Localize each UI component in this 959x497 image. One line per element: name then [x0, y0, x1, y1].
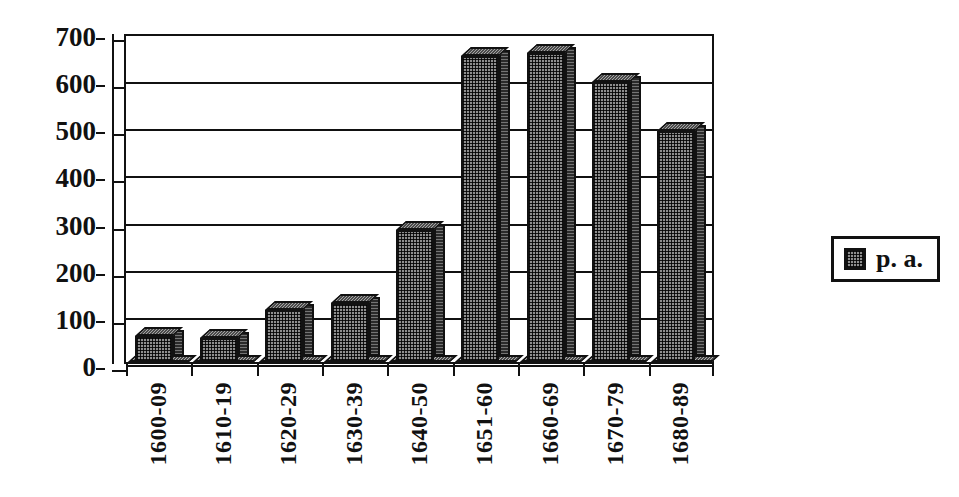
- plot-area: [112, 34, 714, 364]
- y-axis-tick-marker: [96, 227, 105, 229]
- bar[interactable]: [200, 329, 238, 362]
- bar-side-face: [565, 47, 576, 356]
- bar[interactable]: [331, 294, 369, 362]
- x-axis-label: 1670-79: [602, 382, 629, 466]
- bar-side-face: [499, 50, 510, 356]
- y-axis-tick-marker: [96, 38, 105, 40]
- y-axis-tick: [112, 87, 126, 89]
- y-axis-tick: [112, 181, 126, 183]
- x-axis-label: 1680-89: [667, 382, 694, 466]
- legend-swatch-icon: [844, 248, 866, 270]
- bar[interactable]: [527, 44, 565, 362]
- y-axis-tick: [112, 229, 126, 231]
- bar-front-face: [396, 230, 434, 362]
- bar-front-face: [527, 53, 565, 362]
- x-axis-tick: [518, 364, 520, 376]
- y-axis-tick: [112, 40, 126, 42]
- y-axis-tick-label: 100: [10, 307, 96, 334]
- plot-inner: [126, 34, 714, 364]
- y-axis-tick: [112, 134, 126, 136]
- bar[interactable]: [265, 301, 303, 362]
- bar[interactable]: [592, 73, 630, 363]
- x-axis-tick: [257, 364, 259, 376]
- x-axis-label: 1660-69: [537, 382, 564, 466]
- x-axis: 1600-091610-191620-291630-391640-501651-…: [112, 364, 714, 497]
- y-axis-tick-label: 600: [10, 71, 96, 98]
- y-axis-tick-marker: [96, 274, 105, 276]
- bar[interactable]: [135, 327, 173, 362]
- x-axis-tick: [649, 364, 651, 376]
- x-axis-label: 1610-19: [210, 382, 237, 466]
- x-axis-label: 1630-39: [341, 382, 368, 466]
- y-axis-labels: 0100200300400500600700: [10, 0, 96, 497]
- y-axis-tick-marker: [96, 132, 105, 134]
- y-axis-tick: [112, 323, 126, 325]
- y-axis-tick-label: 0: [10, 354, 96, 381]
- legend-label: p. a.: [876, 246, 923, 272]
- y-axis-tick-label: 400: [10, 165, 96, 192]
- x-axis-tick: [322, 364, 324, 376]
- x-axis-tick: [191, 364, 193, 376]
- y-axis-tick-marker: [96, 179, 105, 181]
- bar-front-face: [657, 131, 695, 362]
- bar-front-face: [331, 303, 369, 362]
- y-axis-tick: [112, 276, 126, 278]
- bar[interactable]: [657, 122, 695, 362]
- y-axis-wall: [112, 34, 126, 364]
- bar-side-face: [695, 125, 706, 356]
- y-axis-tick-label: 300: [10, 213, 96, 240]
- x-axis-label: 1640-50: [406, 382, 433, 466]
- bar-chart-figure: 0100200300400500600700 1600-091610-19162…: [0, 0, 959, 497]
- bar-side-face: [303, 304, 314, 356]
- x-axis-tick: [126, 364, 128, 376]
- bar-front-face: [592, 82, 630, 363]
- bar-side-face: [369, 297, 380, 356]
- x-axis-label: 1620-29: [275, 382, 302, 466]
- bar[interactable]: [396, 221, 434, 362]
- bar-front-face: [461, 56, 499, 362]
- y-axis-tick-marker: [96, 85, 105, 87]
- x-axis-label: 1651-60: [471, 382, 498, 466]
- x-axis-tick: [712, 364, 714, 376]
- y-axis-tick-marker: [96, 368, 105, 370]
- bar-side-face: [630, 76, 641, 357]
- x-axis-tick: [387, 364, 389, 376]
- y-axis-tick-label: 500: [10, 118, 96, 145]
- x-axis-tick: [453, 364, 455, 376]
- bar-front-face: [265, 310, 303, 362]
- bar-side-face: [434, 224, 445, 356]
- x-axis-label: 1600-09: [145, 382, 172, 466]
- legend: p. a.: [831, 236, 940, 282]
- bar-front-face: [200, 338, 238, 362]
- bar[interactable]: [461, 47, 499, 362]
- y-axis-tick-label: 700: [10, 24, 96, 51]
- y-axis-tick-label: 200: [10, 260, 96, 287]
- bar-front-face: [135, 336, 173, 362]
- x-axis-tick: [583, 364, 585, 376]
- y-axis-tick-marker: [96, 321, 105, 323]
